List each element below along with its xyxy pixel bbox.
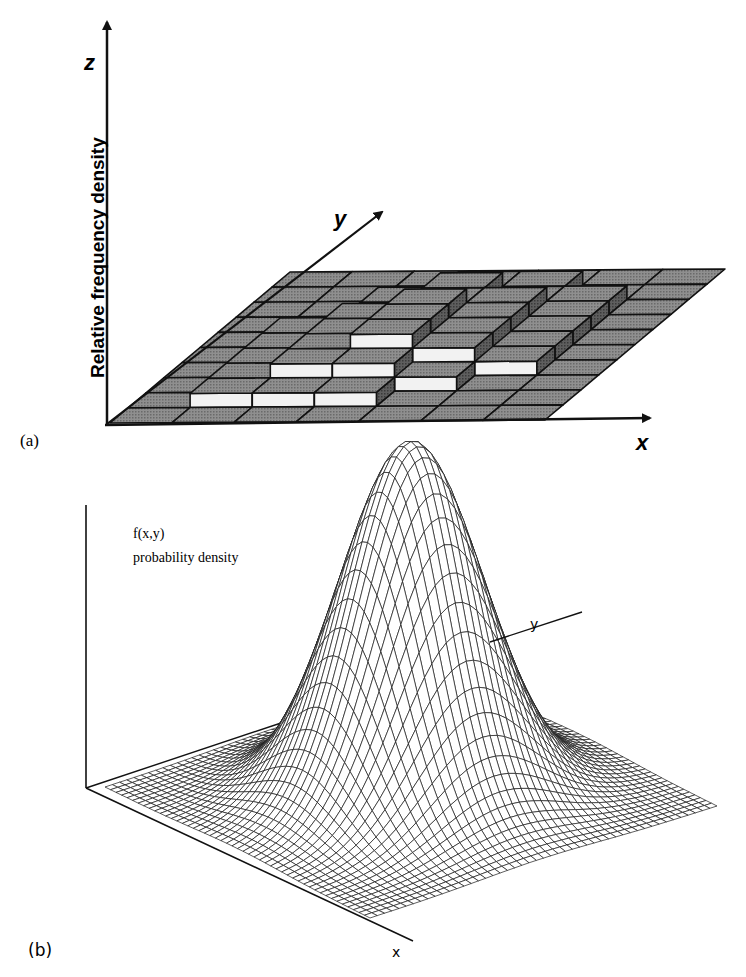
x-axis-label-b: x [392, 944, 400, 960]
figure-b-surface: y x f(x,y) probability density (b) [28, 442, 717, 961]
histogram-bars [110, 269, 725, 423]
x-axis-label: x [635, 430, 649, 455]
y-axis-label: y [333, 206, 348, 231]
gaussian-surface-mesh [105, 442, 717, 919]
vertical-title: Relative frequency density [87, 137, 108, 378]
y-axis-label-b: y [530, 616, 538, 632]
figure-a-histogram: z y x Relative frequency density (a) [20, 22, 725, 455]
density-title-line1: f(x,y) [133, 526, 165, 542]
panel-label-b: (b) [28, 940, 52, 960]
panel-label-a: (a) [20, 431, 39, 450]
figure-canvas: z y x Relative frequency density (a) y x… [0, 0, 746, 977]
z-axis-label: z [83, 50, 95, 75]
density-title-line2: probability density [133, 550, 238, 565]
